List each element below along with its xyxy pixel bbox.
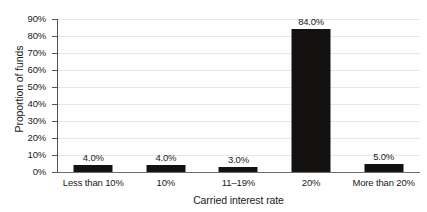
bar-value-label: 4.0% <box>83 152 104 163</box>
bar-value-label: 84.0% <box>298 16 324 27</box>
x-axis-tick-label: 10% <box>130 177 203 188</box>
bar-value-label: 5.0% <box>373 151 394 162</box>
bar[interactable] <box>292 29 331 172</box>
bar[interactable] <box>146 165 185 172</box>
x-axis-title: Carried interest rate <box>57 194 420 206</box>
bars-layer: 4.0%4.0%3.0%84.0%5.0% <box>57 19 420 172</box>
x-axis-line <box>57 172 420 173</box>
bar[interactable] <box>364 164 403 173</box>
y-axis-tick-label: 90% <box>0 14 46 24</box>
x-axis-tick-label: 11–19% <box>202 177 275 188</box>
bar-value-label: 3.0% <box>228 154 249 165</box>
y-axis-tick-label: 20% <box>0 133 46 143</box>
y-axis-tick-label: 50% <box>0 82 46 92</box>
x-axis-tick-label: More than 20% <box>347 177 420 188</box>
bar-chart: Proportion of funds 0%10%20%30%40%50%60%… <box>0 0 427 212</box>
y-axis-tick-label: 10% <box>0 150 46 160</box>
y-axis-tick-label: 60% <box>0 65 46 75</box>
bar-group[interactable]: 5.0% <box>347 19 420 172</box>
bar-group[interactable]: 4.0% <box>130 19 203 172</box>
bar-group[interactable]: 3.0% <box>202 19 275 172</box>
bar-group[interactable]: 84.0% <box>275 19 348 172</box>
y-axis-tick-label: 40% <box>0 99 46 109</box>
y-axis-tick-label: 70% <box>0 48 46 58</box>
y-axis-tick-label: 30% <box>0 116 46 126</box>
y-axis-tick-label: 0% <box>0 167 46 177</box>
x-axis-tick-label: 20% <box>275 177 348 188</box>
x-axis-tick-label: Less than 10% <box>57 177 130 188</box>
bar-value-label: 4.0% <box>155 152 176 163</box>
bar[interactable] <box>74 165 113 172</box>
bar-group[interactable]: 4.0% <box>57 19 130 172</box>
bar[interactable] <box>219 167 258 172</box>
y-axis-tick-mark <box>52 172 57 173</box>
y-axis-tick-label: 80% <box>0 31 46 41</box>
